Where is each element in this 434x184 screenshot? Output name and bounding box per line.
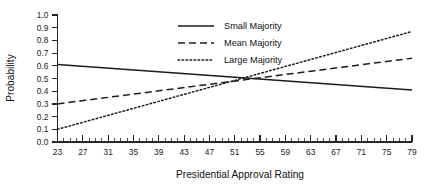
x-tick-label: 35 (129, 147, 139, 157)
x-tick-label: 23 (53, 147, 63, 157)
legend-label: Large Majority (224, 55, 283, 65)
y-tick-label: 0.4 (37, 86, 49, 96)
chart-legend: Small MajorityMean MajorityLarge Majorit… (178, 21, 283, 65)
y-tick-label: 0.3 (37, 99, 49, 109)
y-axis-title: Probability (5, 53, 16, 101)
chart-figure: 0.00.10.20.30.40.50.60.70.80.91.0 232731… (0, 0, 434, 184)
y-tick-label: 0.0 (37, 137, 49, 147)
x-tick-label: 79 (407, 147, 417, 157)
x-tick-label: 59 (281, 147, 291, 157)
x-tick-label: 31 (103, 147, 113, 157)
x-tick-label: 47 (205, 147, 215, 157)
y-tick-label: 0.7 (37, 48, 49, 58)
y-tick-label: 0.8 (37, 35, 49, 45)
legend-label: Small Majority (224, 21, 282, 31)
x-axis-ticks: 232731353943475155596367717579 (53, 135, 417, 157)
x-tick-label: 27 (78, 147, 88, 157)
y-tick-label: 0.5 (37, 74, 49, 84)
x-tick-label: 43 (179, 147, 189, 157)
y-axis-ticks: 0.00.10.20.30.40.50.60.70.80.91.0 (37, 10, 58, 147)
x-tick-label: 75 (382, 147, 392, 157)
x-axis-title: Presidential Approval Rating (176, 169, 304, 180)
series-line-small-majority (58, 65, 413, 90)
x-tick-label: 71 (357, 147, 367, 157)
y-tick-label: 0.6 (37, 61, 49, 71)
x-tick-label: 63 (306, 147, 316, 157)
legend-label: Mean Majority (224, 38, 282, 48)
y-tick-label: 1.0 (37, 10, 49, 20)
x-tick-label: 67 (331, 147, 341, 157)
y-tick-label: 0.1 (37, 124, 49, 134)
x-tick-label: 51 (230, 147, 240, 157)
line-chart-canvas: 0.00.10.20.30.40.50.60.70.80.91.0 232731… (0, 0, 434, 184)
x-tick-label: 55 (255, 147, 265, 157)
x-tick-label: 39 (154, 147, 164, 157)
y-tick-label: 0.9 (37, 23, 49, 33)
y-tick-label: 0.2 (37, 112, 49, 122)
